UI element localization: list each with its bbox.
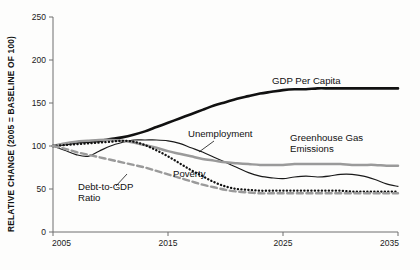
- series-label-poverty: Poverty: [173, 168, 206, 179]
- chart-container: RELATIVE CHANGE (2005 = BASELINE OF 100)…: [0, 0, 420, 270]
- y-tick-label-50: 50: [37, 184, 47, 194]
- series-annotations: GDP Per CapitaUnemploymentGreenhouse Gas…: [78, 75, 363, 203]
- series-label-ratio: Ratio: [78, 192, 100, 203]
- x-axis-tick-labels: 2005201520252035: [52, 238, 399, 248]
- y-tick-label-250: 250: [32, 12, 46, 22]
- y-tick-label-150: 150: [32, 98, 46, 108]
- y-tick-label-200: 200: [32, 55, 46, 65]
- series-label-gdp-per-capita: GDP Per Capita: [272, 75, 341, 86]
- x-tick-label-2035: 2035: [380, 238, 399, 248]
- y-tick-label-0: 0: [41, 227, 46, 237]
- series-label-unemployment: Unemployment: [188, 128, 253, 139]
- y-axis-title-group: RELATIVE CHANGE (2005 = BASELINE OF 100): [6, 36, 16, 232]
- y-axis-tick-labels: 050100150200250: [32, 12, 46, 237]
- series-label-debt-to-gdp: Debt-to-GDP: [78, 181, 133, 192]
- series-line-greenhouse-gas-emissions: [53, 140, 398, 166]
- relative-change-line-chart: RELATIVE CHANGE (2005 = BASELINE OF 100)…: [0, 0, 420, 270]
- y-axis-ticks: [49, 17, 53, 232]
- y-axis-title: RELATIVE CHANGE (2005 = BASELINE OF 100): [6, 36, 16, 232]
- x-tick-label-2005: 2005: [52, 238, 71, 248]
- series-label-greenhouse-gas: Greenhouse Gas: [290, 132, 363, 143]
- x-axis: 2005201520252035: [52, 232, 399, 248]
- y-axis: 050100150200250: [32, 12, 53, 237]
- x-axis-ticks: [53, 232, 398, 236]
- series-label-emissions: Emissions: [290, 143, 334, 154]
- annotation-leader-unemployment: [199, 141, 214, 152]
- y-tick-label-100: 100: [32, 141, 46, 151]
- x-tick-label-2015: 2015: [159, 238, 178, 248]
- x-tick-label-2025: 2025: [274, 238, 293, 248]
